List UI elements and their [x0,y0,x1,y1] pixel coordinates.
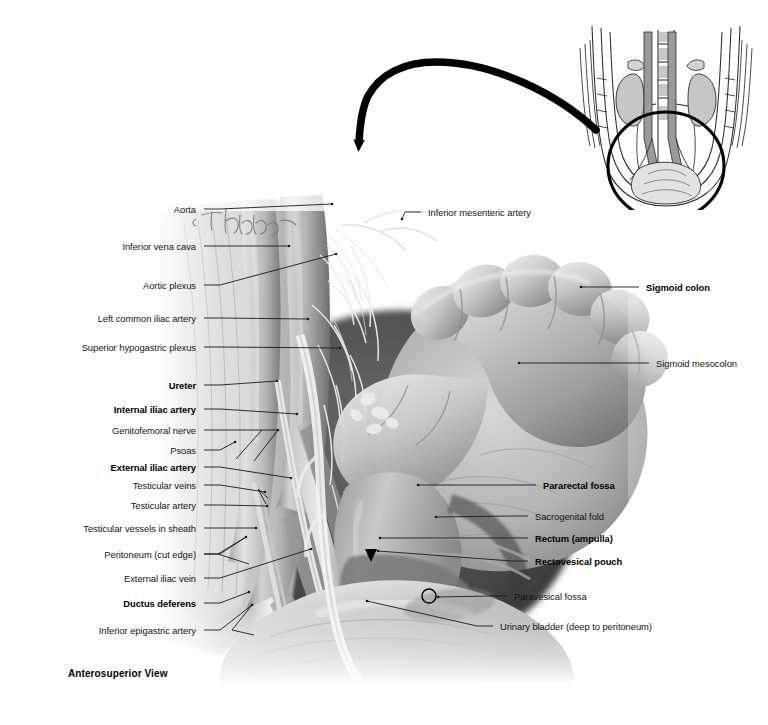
label-urinary-bladder: Urinary bladder (deep to peritoneum) [500,621,652,632]
label-testicular-artery: Testicular artery [131,500,196,511]
orientation-inset-diagram [568,18,764,210]
label-inferior-vena-cava: Inferior vena cava [122,241,196,252]
orientation-curved-arrow [359,62,596,142]
label-internal-iliac-artery: Internal iliac artery [114,404,196,415]
label-sacrogenital-fold: Sacrogenital fold [535,511,604,522]
label-testicular-veins: Testicular veins [133,480,196,491]
label-sigmoid-colon: Sigmoid colon [646,282,710,293]
label-rectovesical-pouch: Rectovesical pouch [535,556,622,567]
label-sigmoid-mesocolon: Sigmoid mesocolon [656,358,737,369]
dissection-photograph [150,185,680,685]
label-external-iliac-vein: External iliac vein [124,573,196,584]
label-left-common-iliac-artery: Left common iliac artery [98,313,196,324]
label-testicular-vessels-in-sheath: Testicular vessels in sheath [83,523,196,534]
label-external-iliac-artery: External iliac artery [111,462,196,473]
label-ureter: Ureter [169,380,196,391]
label-aorta: Aorta [174,204,196,215]
label-inferior-epigastric-artery: Inferior epigastric artery [99,625,196,636]
label-superior-hypogastric-plexus: Superior hypogastric plexus [82,342,196,353]
label-psoas: Psoas [170,445,196,456]
view-label: Anterosuperior View [68,668,168,679]
anatomy-plate: AortaInferior vena cavaAortic plexusLeft… [0,0,768,725]
label-genitofemoral-nerve: Genitofemoral nerve [112,425,196,436]
orientation-inset-artwork [568,18,764,210]
label-pararectal-fossa: Pararectal fossa [543,480,615,491]
label-peritoneum-cut-edge: Peritoneum (cut edge) [104,549,196,560]
label-inferior-mesenteric-artery: Inferior mesenteric artery [428,207,531,218]
label-paravesical-fossa: Paravesical fossa [514,591,587,602]
label-aortic-plexus: Aortic plexus [143,280,196,291]
dissection-photograph-artwork [150,185,680,685]
label-ductus-deferens: Ductus deferens [123,598,196,609]
label-rectum-ampulla: Rectum (ampulla) [535,533,613,544]
